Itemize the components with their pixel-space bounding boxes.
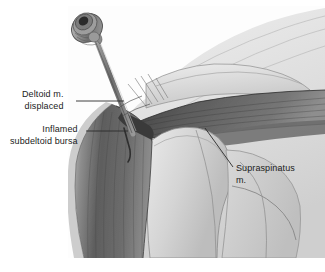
label-deltoid: Deltoid m. displaced [22, 89, 64, 112]
label-supraspinatus: Supraspinatus m. [236, 163, 295, 186]
label-supraspinatus-line2: m. [236, 175, 295, 187]
label-bursa-line2: subdeltoid bursa [10, 136, 78, 148]
label-inflamed-subdeltoid-bursa: Inflamed subdeltoid bursa [10, 124, 78, 147]
label-supraspinatus-line1: Supraspinatus [236, 163, 295, 175]
label-deltoid-line1: Deltoid m. [22, 89, 64, 101]
label-deltoid-line2: displaced [22, 101, 64, 113]
label-bursa-line1: Inflamed [10, 124, 78, 136]
illustration-body [66, 6, 325, 258]
hub-side-boss [89, 32, 100, 42]
illustration-figure: Deltoid m. displaced Inflamed subdeltoid… [0, 0, 325, 272]
